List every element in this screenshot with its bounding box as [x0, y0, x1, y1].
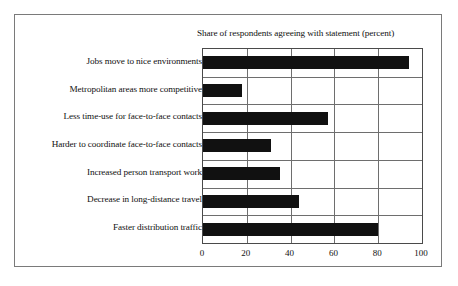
- plot-area: [202, 48, 423, 244]
- bar-row: [203, 215, 422, 243]
- x-tick-label-0: 0: [200, 248, 205, 258]
- category-label: Increased person transport work: [12, 167, 202, 177]
- bar: [203, 112, 328, 125]
- bar-row: [203, 188, 422, 216]
- x-tick-label-60: 60: [329, 248, 338, 258]
- x-axis-tick-labels: 020406080100: [202, 246, 423, 264]
- bar: [203, 139, 271, 152]
- category-label: Less time-use for face-to-face contacts: [12, 111, 202, 121]
- bar: [203, 167, 280, 180]
- category-axis-labels: Jobs move to nice environmentsMetropolit…: [7, 48, 202, 244]
- chart-title: Share of respondents agreeing with state…: [197, 28, 441, 38]
- bar: [203, 56, 409, 69]
- bar-row: [203, 160, 422, 188]
- bar: [203, 195, 299, 208]
- bar: [203, 84, 242, 97]
- bar-row: [203, 132, 422, 160]
- x-tick-label-80: 80: [373, 248, 382, 258]
- category-label: Jobs move to nice environments: [12, 56, 202, 66]
- bar-row: [203, 77, 422, 105]
- x-tick-label-100: 100: [414, 248, 428, 258]
- category-label: Decrease in long-distance travel: [12, 194, 202, 204]
- bars-layer: [203, 49, 422, 243]
- figure-frame: Share of respondents agreeing with state…: [14, 14, 442, 267]
- category-label: Harder to coordinate face-to-face contac…: [12, 139, 202, 149]
- category-label: Metropolitan areas more competitive: [12, 84, 202, 94]
- bar-row: [203, 49, 422, 77]
- bar: [203, 223, 378, 236]
- x-tick-label-40: 40: [285, 248, 294, 258]
- x-tick-label-20: 20: [241, 248, 250, 258]
- category-label: Faster distribution traffic: [12, 222, 202, 232]
- bar-row: [203, 104, 422, 132]
